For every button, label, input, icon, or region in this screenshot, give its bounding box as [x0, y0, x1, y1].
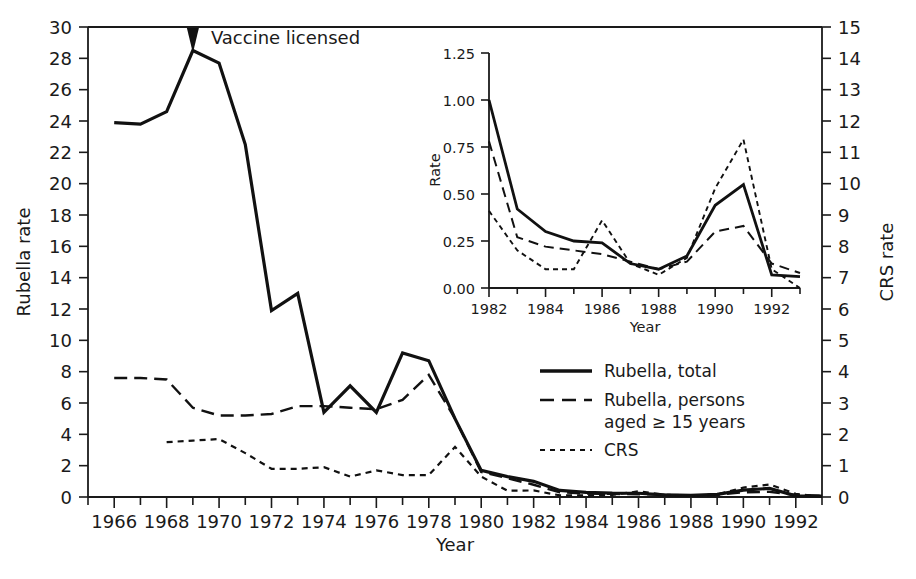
y2-tick-label: 5	[838, 330, 849, 351]
inset-series-group	[489, 100, 800, 288]
x-tick-label: 1982	[511, 511, 557, 532]
legend: Rubella, total Rubella, persons aged ≥ 1…	[540, 361, 745, 460]
vaccine-licensed-label: Vaccine licensed	[211, 27, 360, 48]
main-y-axis-title: Rubella rate	[13, 208, 34, 317]
y-tick-label: 8	[61, 361, 72, 382]
y2-tick-label: 2	[838, 424, 849, 445]
x-tick-label: 1974	[301, 511, 347, 532]
main-y2-axis-title: CRS rate	[876, 223, 897, 302]
x-tick-label: 1968	[144, 511, 190, 532]
y-tick-label: 30	[49, 17, 72, 38]
y-tick-label: 28	[49, 48, 72, 69]
inset-x-tick-label: 1984	[527, 301, 564, 317]
y2-tick-label: 9	[838, 205, 849, 226]
x-tick-label: 1970	[196, 511, 242, 532]
legend-label-rubella-15plus-line1: Rubella, persons	[604, 390, 745, 410]
y2-tick-label: 7	[838, 267, 849, 288]
legend-label-rubella-15plus-line2: aged ≥ 15 years	[604, 412, 745, 432]
y-tick-label: 24	[49, 111, 72, 132]
y2-tick-label: 8	[838, 236, 849, 257]
inset-x-tick-label: 1986	[584, 301, 621, 317]
inset-y-tick-label: 0.25	[443, 234, 475, 250]
inset-y-tick-label: 1.00	[443, 93, 475, 109]
x-tick-label: 1986	[616, 511, 662, 532]
main-y-axis-tick-labels: 024681012141618202224262830	[49, 17, 72, 508]
main-x-tickmarks	[88, 497, 822, 508]
inset-y-axis-tick-labels: 0.000.250.500.751.001.25	[443, 46, 475, 297]
x-tick-label: 1980	[458, 511, 504, 532]
y-tick-label: 16	[49, 236, 72, 257]
inset-y-tick-label: 0.00	[443, 281, 475, 297]
y-tick-label: 0	[61, 487, 72, 508]
y-tick-label: 14	[49, 267, 72, 288]
inset-x-axis-tick-labels: 198219841986198819901992	[471, 301, 791, 317]
series-crs	[167, 439, 822, 497]
y-tick-label: 18	[49, 205, 72, 226]
main-x-axis-title: Year	[435, 534, 475, 555]
x-tick-label: 1988	[668, 511, 714, 532]
main-y-tickmarks	[79, 27, 88, 497]
y2-tick-label: 4	[838, 361, 849, 382]
y2-tick-label: 10	[838, 173, 861, 194]
inset-x-tick-label: 1988	[640, 301, 677, 317]
x-tick-label: 1966	[91, 511, 137, 532]
main-y2-tickmarks	[822, 27, 831, 497]
x-tick-label: 1990	[720, 511, 766, 532]
y-tick-label: 4	[61, 424, 72, 445]
down-arrow-icon	[187, 28, 199, 53]
x-tick-label: 1984	[563, 511, 609, 532]
inset-y-tick-label: 1.25	[443, 46, 475, 62]
x-tick-label: 1978	[406, 511, 452, 532]
inset-x-axis-title: Year	[629, 319, 661, 335]
vaccine-licensed-annotation: Vaccine licensed	[187, 27, 360, 53]
y-tick-label: 26	[49, 79, 72, 100]
y2-tick-label: 13	[838, 79, 861, 100]
y2-tick-label: 1	[838, 455, 849, 476]
legend-label-crs: CRS	[604, 440, 638, 460]
x-tick-label: 1976	[353, 511, 399, 532]
y-tick-label: 22	[49, 142, 72, 163]
y2-tick-label: 15	[838, 17, 861, 38]
inset-x-tick-label: 1982	[471, 301, 508, 317]
inset-series-rubella-15plus	[489, 141, 800, 273]
inset-x-tick-label: 1990	[697, 301, 734, 317]
y2-tick-label: 11	[838, 142, 861, 163]
x-tick-label: 1992	[773, 511, 819, 532]
chart-canvas: 024681012141618202224262830 012345678910…	[0, 0, 916, 579]
y2-tick-label: 6	[838, 299, 849, 320]
y-tick-label: 10	[49, 330, 72, 351]
y-tick-label: 20	[49, 173, 72, 194]
y2-tick-label: 3	[838, 393, 849, 414]
legend-label-rubella-total: Rubella, total	[604, 361, 717, 381]
x-tick-label: 1972	[249, 511, 295, 532]
inset-y-tick-label: 0.50	[443, 187, 475, 203]
y-tick-label: 2	[61, 455, 72, 476]
main-y2-axis-tick-labels: 0123456789101112131415	[838, 17, 861, 508]
y2-tick-label: 14	[838, 48, 861, 69]
y2-tick-label: 12	[838, 111, 861, 132]
y-tick-label: 6	[61, 393, 72, 414]
y2-tick-label: 0	[838, 487, 849, 508]
inset-x-tick-label: 1992	[753, 301, 790, 317]
inset-x-tickmarks	[489, 288, 800, 297]
rubella-crs-figure: 024681012141618202224262830 012345678910…	[0, 0, 916, 579]
y-tick-label: 12	[49, 299, 72, 320]
inset-y-tick-label: 0.75	[443, 140, 475, 156]
main-x-axis-tick-labels: 1966196819701972197419761978198019821984…	[91, 511, 818, 532]
inset-y-tickmarks	[481, 53, 489, 288]
inset-y-axis-title: Rate	[427, 153, 443, 186]
